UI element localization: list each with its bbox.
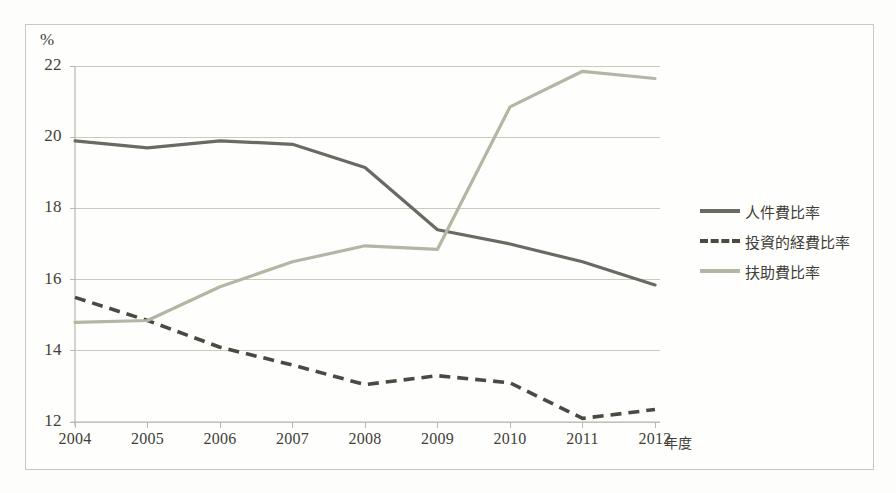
x-axis-tick-label: 2007 (260, 430, 326, 448)
legend-item-label: 投資的経費比率 (745, 231, 850, 252)
legend-item-3[interactable]: 扶助費比率 (700, 256, 870, 286)
y-axis-tick-label: 16 (22, 269, 62, 289)
series-line-1 (75, 141, 655, 285)
series-line-2 (75, 297, 655, 418)
x-axis-tick-marks (75, 422, 655, 428)
x-axis-tick-label: 2008 (332, 430, 398, 448)
x-axis-tick-label: 2010 (477, 430, 543, 448)
y-axis-unit-label: % (40, 30, 54, 50)
y-axis-tick-label: 18 (22, 197, 62, 217)
chart-legend: 人件費比率投資的経費比率扶助費比率 (700, 196, 870, 286)
y-axis-tick-label: 20 (22, 126, 62, 146)
x-axis-title: 年度 (664, 432, 692, 452)
y-axis-tick-label: 14 (22, 340, 62, 360)
y-axis-tick-label: 22 (22, 55, 62, 75)
y-axis-tick-label: 12 (22, 411, 62, 431)
legend-item-1[interactable]: 人件費比率 (700, 196, 870, 226)
legend-line-swatch-icon (700, 269, 740, 273)
legend-line-swatch-icon (700, 209, 740, 213)
x-axis-tick-label: 2004 (42, 430, 108, 448)
gridlines-group (75, 66, 660, 422)
x-axis-tick-label: 2006 (187, 430, 253, 448)
x-axis-tick-label: 2011 (550, 430, 616, 448)
legend-line-swatch-icon (700, 239, 740, 243)
x-axis-tick-label: 2005 (115, 430, 181, 448)
data-series-layer (75, 71, 655, 418)
legend-item-2[interactable]: 投資的経費比率 (700, 226, 870, 256)
series-line-3 (75, 71, 655, 322)
x-axis-tick-label: 2009 (405, 430, 471, 448)
legend-item-label: 扶助費比率 (745, 261, 820, 282)
y-axis-tick-marks (70, 66, 75, 422)
legend-item-label: 人件費比率 (745, 201, 820, 222)
